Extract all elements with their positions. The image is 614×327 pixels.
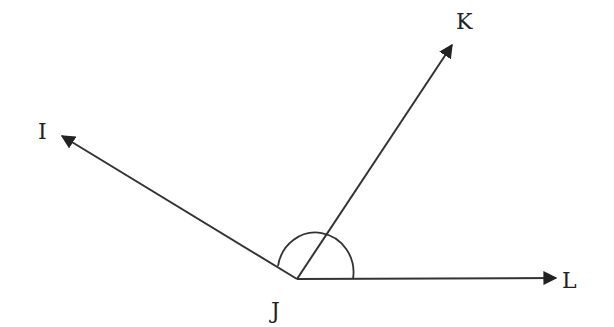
ray-JK: [297, 45, 452, 279]
angle-arc: [278, 233, 354, 279]
ray-JL: [297, 278, 556, 279]
label-I: I: [38, 121, 47, 143]
label-J: J: [271, 300, 280, 322]
label-K: K: [456, 11, 472, 33]
ray-JI: [62, 136, 297, 279]
angle-diagram: I K L J: [0, 0, 614, 327]
diagram-svg: [0, 0, 614, 327]
label-L: L: [562, 270, 577, 292]
